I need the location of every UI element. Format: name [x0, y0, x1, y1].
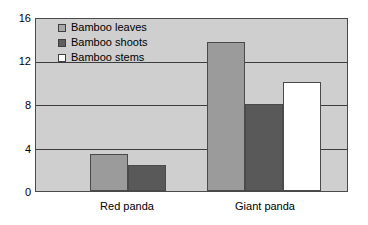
x-tick-label-giant-panda: Giant panda [190, 200, 340, 212]
legend-label-bamboo-shoots: Bamboo shoots [71, 37, 147, 48]
legend-item-bamboo-leaves: Bamboo leaves [58, 21, 147, 34]
bar-giant-panda-bamboo-shoots [245, 104, 283, 191]
y-axis: 16 12 8 4 0 [0, 0, 31, 225]
legend-label-bamboo-stems: Bamboo stems [71, 52, 144, 63]
y-tick-label-4: 4 [0, 144, 31, 155]
y-tick-label-16: 16 [0, 13, 31, 24]
legend-item-bamboo-stems: Bamboo stems [58, 51, 147, 64]
y-tick-label-8: 8 [0, 100, 31, 111]
x-tick-label-red-panda: Red panda [57, 200, 197, 212]
plot-area: Bamboo leaves Bamboo shoots Bamboo stems [35, 18, 348, 192]
legend-swatch-leaves-icon [58, 24, 66, 32]
legend-swatch-shoots-icon [58, 39, 66, 47]
y-tick-label-12: 12 [0, 56, 31, 67]
bar-giant-panda-bamboo-leaves [207, 42, 245, 191]
bar-giant-panda-bamboo-stems [283, 82, 321, 191]
legend-swatch-stems-icon [58, 54, 66, 62]
bar-chart: 16 12 8 4 0 Bamboo leaves Bamboo shoots [0, 0, 368, 225]
legend-item-bamboo-shoots: Bamboo shoots [58, 36, 147, 49]
y-tick-label-0: 0 [0, 187, 31, 198]
x-axis: Red panda Giant panda [35, 200, 348, 216]
bar-red-panda-bamboo-leaves [90, 154, 128, 191]
bar-red-panda-bamboo-shoots [128, 165, 166, 191]
legend-label-bamboo-leaves: Bamboo leaves [71, 22, 147, 33]
legend: Bamboo leaves Bamboo shoots Bamboo stems [58, 21, 147, 66]
